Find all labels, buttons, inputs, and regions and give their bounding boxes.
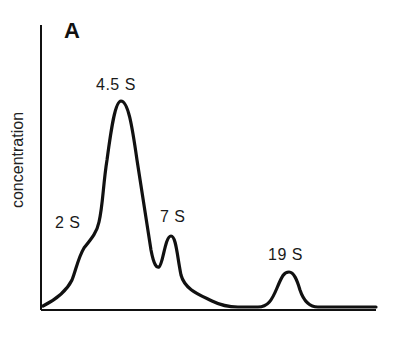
y-axis-label: concentration xyxy=(9,112,27,208)
concentration-curve xyxy=(43,101,376,307)
panel-letter: A xyxy=(64,18,80,44)
peak-label-7s: 7 S xyxy=(160,208,186,226)
sedimentation-chart xyxy=(0,0,396,343)
peak-label-19s: 19 S xyxy=(268,246,303,264)
peak-label-4-5s: 4.5 S xyxy=(96,76,136,94)
peak-label-2s: 2 S xyxy=(55,214,81,232)
